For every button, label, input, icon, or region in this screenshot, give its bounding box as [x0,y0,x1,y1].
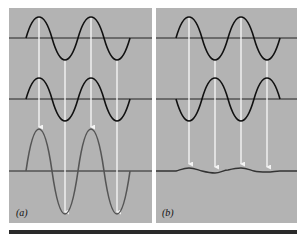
result-wave-b [156,168,297,173]
panel-label-b: (b) [162,207,174,218]
bottom-divider-bar [9,230,297,234]
panel-label-a: (a) [16,207,28,218]
interference-diagram [0,0,306,235]
panel-a-graphics [9,17,152,214]
panel-b-graphics [156,17,297,173]
